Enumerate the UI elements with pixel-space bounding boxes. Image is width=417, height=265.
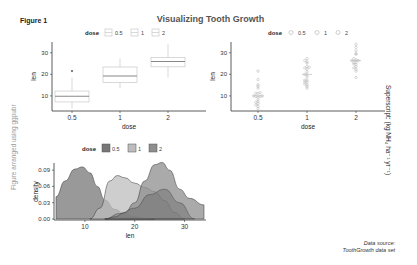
x-tick-label: 1 xyxy=(305,114,309,121)
dot-point xyxy=(355,43,357,45)
boxplot-panel: dose0.512doselen1020300.512 xyxy=(30,29,206,130)
legend-title: dose xyxy=(82,146,97,152)
legend-title: dose xyxy=(268,30,283,36)
outlier-point xyxy=(71,70,73,72)
x-axis-label: dose xyxy=(301,123,315,130)
legend-label: 2 xyxy=(159,146,162,152)
y-tick-label: 20 xyxy=(41,71,48,77)
dot-point xyxy=(306,57,308,59)
legend-key-dot-icon xyxy=(336,31,340,35)
x-tick-label: 2 xyxy=(354,114,358,121)
y-tick-label: 10 xyxy=(220,93,227,99)
x-tick-label: 0.5 xyxy=(253,114,262,121)
y-tick-label: 30 xyxy=(41,50,48,56)
y-tick-label: 0.09 xyxy=(38,167,50,173)
y-tick-label: 0.00 xyxy=(38,216,50,222)
dot-point xyxy=(355,46,357,48)
legend-label: 2 xyxy=(345,30,348,36)
dot-point xyxy=(304,59,306,61)
x-tick-label: 10 xyxy=(81,223,89,230)
legend-label: 1 xyxy=(324,30,327,36)
legend-label: 2 xyxy=(162,30,165,36)
dot-point xyxy=(306,65,308,67)
legend-key-fill-icon xyxy=(149,144,157,152)
legend-label: 1 xyxy=(141,30,144,36)
figure-canvas: dose0.512doselen1020300.512 dose0.512dos… xyxy=(0,0,417,265)
legend-label: 0.5 xyxy=(112,146,120,152)
dot-point xyxy=(355,76,357,78)
y-axis-label: len xyxy=(30,72,37,81)
x-tick-label: 20 xyxy=(131,223,139,230)
box-2 xyxy=(151,44,185,77)
dotplot-panel: dose0.512doselen1020300.512 xyxy=(209,30,385,130)
y-tick-label: 0.03 xyxy=(38,200,50,206)
legend-label: 0.5 xyxy=(298,30,306,36)
y-tick-label: 10 xyxy=(41,93,48,99)
dot-point xyxy=(353,57,355,59)
dot-point xyxy=(306,71,308,73)
dot-point xyxy=(257,83,259,85)
box-1 xyxy=(103,59,137,89)
dot-point xyxy=(355,50,357,52)
x-axis-label: dose xyxy=(122,123,136,130)
legend-label: 0.5 xyxy=(115,30,123,36)
x-tick-label: 1 xyxy=(118,114,122,121)
x-tick-label: 0.5 xyxy=(67,114,76,121)
legend-key-fill-icon xyxy=(102,144,110,152)
y-axis-label: len xyxy=(209,72,216,81)
y-tick-label: 20 xyxy=(220,71,227,77)
y-tick-label: 0.06 xyxy=(38,183,50,189)
density-panel: dose0.512lendensity0.000.030.060.0910203… xyxy=(32,144,206,239)
x-tick-label: 2 xyxy=(166,114,170,121)
box-0.5 xyxy=(55,70,89,108)
dot-point xyxy=(257,70,259,72)
legend-key-dot-icon xyxy=(315,31,319,35)
x-axis-label: len xyxy=(126,232,135,239)
dot-point xyxy=(257,78,259,80)
x-tick-label: 30 xyxy=(181,223,189,230)
legend-label: 1 xyxy=(138,146,141,152)
dot-point xyxy=(259,91,261,93)
y-tick-label: 30 xyxy=(220,50,227,56)
legend-title: dose xyxy=(85,30,100,36)
legend-key-dot-icon xyxy=(289,31,293,35)
legend-key-fill-icon xyxy=(128,144,136,152)
